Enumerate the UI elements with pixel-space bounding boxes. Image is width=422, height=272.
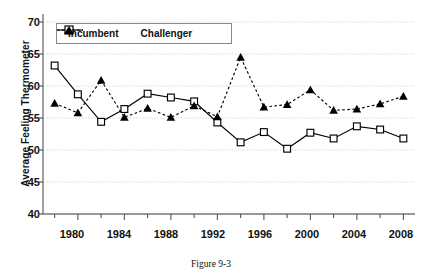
legend-swatch-challenger <box>57 24 83 36</box>
figure-container: Average Feeling Thermometer 70 65 60 55 … <box>0 0 422 272</box>
chart-legend: Incumbent Challenger <box>56 23 232 44</box>
legend-label-challenger: Challenger <box>141 28 193 39</box>
legend-item-challenger: Challenger <box>137 28 193 39</box>
figure-caption: Figure 9-3 <box>0 259 422 269</box>
